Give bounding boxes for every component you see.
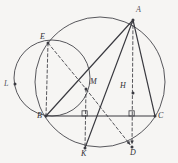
- point-dot-M: [85, 88, 88, 91]
- right-angle-mark-at-foot-K: [82, 111, 87, 116]
- point-dot-C: [154, 115, 157, 118]
- segment-MD: [86, 89, 130, 144]
- point-dot-L: [14, 83, 17, 86]
- solid-segments-layer: [46, 20, 155, 148]
- point-label-M: M: [90, 78, 97, 86]
- geometry-figure: AELMHBCKD: [0, 0, 178, 163]
- segment-MK: [85, 89, 86, 148]
- circle-small-circle: [14, 40, 90, 116]
- geometry-canvas: [0, 0, 178, 163]
- point-label-E: E: [40, 33, 45, 41]
- point-label-L: L: [4, 80, 8, 88]
- point-label-C: C: [158, 112, 163, 120]
- point-label-K: K: [81, 150, 86, 158]
- segment-EB: [46, 43, 48, 116]
- segment-BA: [46, 20, 133, 116]
- point-dot-E: [47, 42, 50, 45]
- point-label-H: H: [120, 82, 126, 90]
- segment-EM: [48, 43, 86, 89]
- point-dot-H: [132, 92, 135, 95]
- point-label-A: A: [136, 6, 141, 14]
- right-angle-mark-at-foot-D: [129, 111, 134, 116]
- segment-AD: [132, 20, 133, 144]
- circle-circumcircle: [35, 17, 165, 147]
- point-dot-B: [45, 115, 48, 118]
- point-label-D: D: [130, 149, 136, 157]
- point-dot-A: [132, 19, 135, 22]
- point-label-B: B: [37, 112, 42, 120]
- right-angle-marks-layer: [82, 111, 134, 116]
